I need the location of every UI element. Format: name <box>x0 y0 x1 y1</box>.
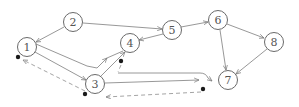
edge-dashed-7-3 <box>106 92 201 97</box>
edge-6-7 <box>220 30 226 70</box>
edge-dashed-4-stub <box>118 65 121 72</box>
node-7: 7 <box>219 71 238 90</box>
edge-3-7 <box>105 80 199 83</box>
edge-1-4-bent <box>36 44 107 68</box>
anchor-dot-7 <box>201 87 205 91</box>
node-1-label: 1 <box>24 41 31 54</box>
node-5-label: 5 <box>169 24 176 37</box>
edge-1-3 <box>35 52 86 80</box>
node-3-label: 3 <box>92 78 99 91</box>
node-6-label: 6 <box>215 14 222 27</box>
directed-graph: 1 2 3 4 5 6 7 8 <box>0 0 299 107</box>
edge-dashed-3-1 <box>23 60 85 91</box>
edge-5-4 <box>139 34 163 40</box>
node-6: 6 <box>209 11 228 30</box>
edge-2-5 <box>83 23 162 29</box>
node-4: 4 <box>121 34 140 53</box>
edge-6-8 <box>227 24 264 38</box>
node-8-label: 8 <box>271 36 278 49</box>
edge-8-7 <box>236 49 267 74</box>
node-1: 1 <box>18 38 37 57</box>
edge-5-6 <box>181 22 208 27</box>
node-7-label: 7 <box>225 74 232 87</box>
node-8: 8 <box>265 33 284 52</box>
node-5: 5 <box>163 21 182 40</box>
node-4-label: 4 <box>127 37 134 50</box>
edge-2-1 <box>36 27 64 42</box>
node-2-label: 2 <box>70 16 77 29</box>
node-3: 3 <box>86 75 105 94</box>
anchor-dot-3 <box>83 92 87 96</box>
anchor-dot-1 <box>16 55 20 59</box>
anchor-dot-4 <box>119 59 123 63</box>
node-2: 2 <box>64 13 83 32</box>
